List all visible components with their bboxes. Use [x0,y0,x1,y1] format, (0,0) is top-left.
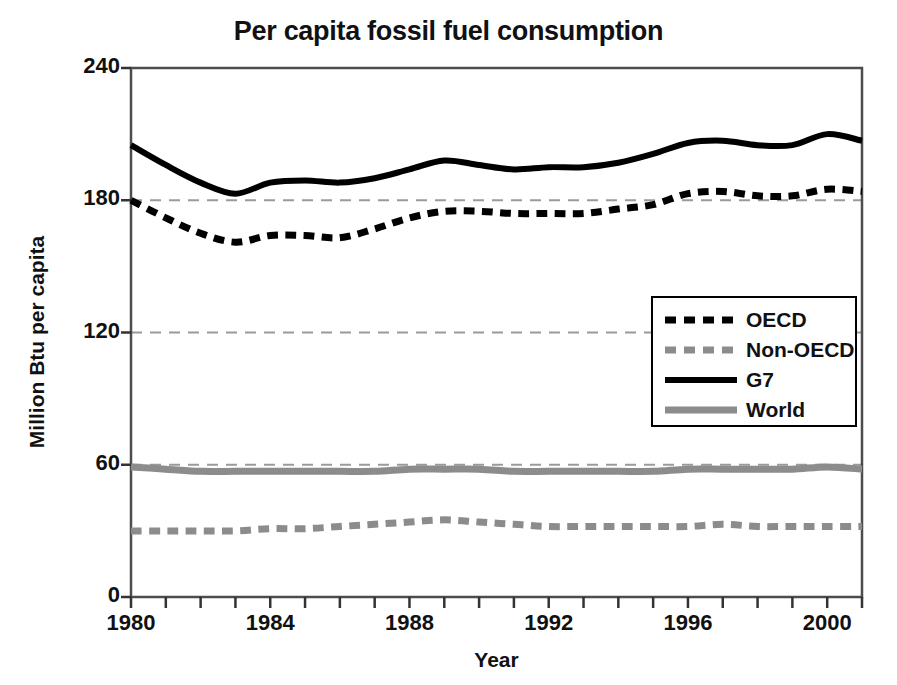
series-line-g7 [131,134,862,194]
chart-container: Per capita fossil fuel consumption Milli… [0,0,897,685]
legend-item-g7[interactable]: G7 [653,364,859,396]
y-tick-label: 240 [60,53,120,79]
x-tick-label: 1984 [225,610,315,636]
y-tick-label: 60 [60,450,120,476]
chart-legend: OECDNon-OECDG7World [651,296,857,427]
legend-item-world[interactable]: World [653,394,859,426]
y-tick-label: 120 [60,318,120,344]
y-tick-label: 180 [60,185,120,211]
legend-label: OECD [746,308,807,332]
legend-label: Non-OECD [746,338,855,362]
x-tick-label: 1988 [364,610,454,636]
x-tick-label: 2000 [782,610,872,636]
x-tick-label: 1980 [86,610,176,636]
x-tick-label: 1996 [643,610,733,636]
legend-item-oecd[interactable]: OECD [653,304,859,336]
legend-item-non-oecd[interactable]: Non-OECD [653,334,859,366]
series-line-non-oecd [131,520,862,531]
legend-swatch-icon [665,373,737,387]
y-tick-label: 0 [60,582,120,608]
series-line-world [131,467,862,472]
legend-label: World [746,398,805,422]
legend-label: G7 [746,368,774,392]
series-line-oecd [131,189,862,242]
x-tick-label: 1992 [504,610,594,636]
legend-swatch-icon [665,403,737,417]
legend-swatch-icon [665,313,737,327]
legend-swatch-icon [665,343,737,357]
